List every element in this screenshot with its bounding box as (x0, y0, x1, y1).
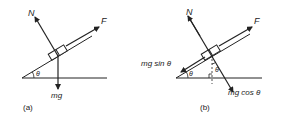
label-parallel: mg sin θ (141, 59, 172, 68)
angle-arc (32, 72, 34, 78)
caption-a: (a) (23, 103, 33, 112)
label-angle-2: θ (215, 66, 219, 73)
panel-b: N F mg sin θ mg cos θ θ θ (b) (141, 7, 262, 112)
label-angle-1: θ (189, 70, 193, 77)
label-force: F (254, 16, 260, 26)
incline-line (176, 34, 250, 78)
normal-arrow-head (188, 16, 200, 36)
panel-a: N F mg θ (a) (22, 8, 107, 112)
label-weight: mg (51, 91, 63, 100)
caption-b: (b) (200, 103, 210, 112)
parallel-component-arrow (181, 57, 205, 72)
label-angle: θ (36, 70, 40, 77)
angle-arc-1 (186, 72, 188, 78)
label-force: F (101, 16, 107, 26)
label-normal: N (186, 7, 193, 17)
label-perpendicular: mg cos θ (228, 88, 261, 97)
force-arrow (66, 27, 99, 46)
label-normal: N (28, 8, 35, 18)
angle-arc-2 (212, 62, 216, 64)
incline-force-diagrams: N F mg θ (a) N F mg sin θ mg cos θ θ θ (… (0, 0, 283, 115)
normal-arrow (35, 17, 58, 56)
right-angle-mark (209, 74, 212, 78)
